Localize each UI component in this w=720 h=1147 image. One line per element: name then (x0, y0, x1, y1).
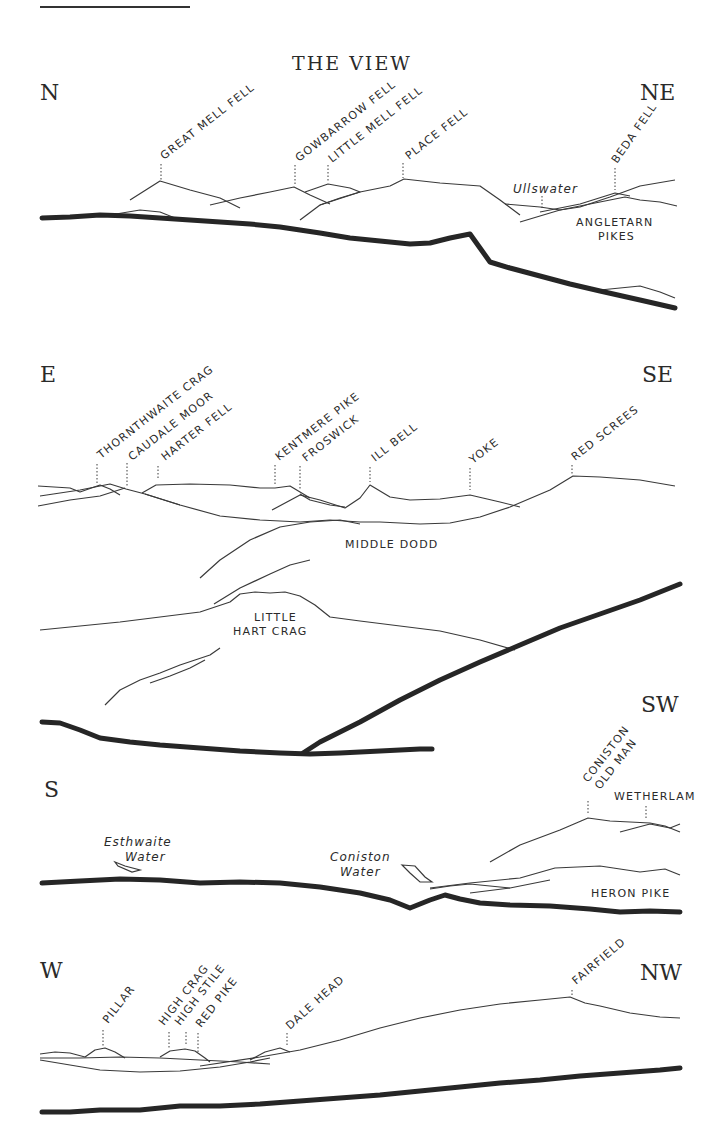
ridge-pillar (40, 1048, 125, 1058)
summit-label-yoke: YOKE (466, 435, 501, 467)
lake-coniston-water (402, 865, 432, 882)
label-coniston-water: Water (340, 865, 381, 879)
label-pikes: PIKES (598, 230, 635, 243)
diagram-title: THE VIEW (292, 52, 412, 74)
compass-label-se: SE (642, 362, 673, 387)
label-heron-pike: HERON PIKE (591, 887, 670, 900)
label-esthwaite: Esthwaite (104, 835, 172, 849)
summit-label-pillar: PILLAR (100, 983, 138, 1026)
ridge-kentmere-froswick (272, 485, 520, 510)
panel-south-southwest: SW S CONISTON OLD MAN WETHERLAM Esthwait… (42, 692, 696, 912)
summit-label-wetherlam: WETHERLAM (614, 790, 696, 803)
summit-label-red-screes: RED SCREES (569, 403, 641, 464)
ridge-fairfield (200, 997, 680, 1066)
compass-label-s: S (44, 777, 59, 802)
label-hart-crag: HART CRAG (233, 625, 307, 638)
compass-label-ne: NE (640, 80, 675, 105)
summit-label-place-fell: PLACE FELL (403, 105, 471, 162)
ridge-gully-2 (150, 660, 205, 683)
summit-label-ill-bell: ILL BELL (369, 420, 421, 464)
ridge-gully-1 (105, 648, 220, 705)
panel-east-southeast: E SE THORNTHWAITE CRAG CAUDALE MOOR HART… (38, 362, 680, 754)
compass-label-nw: NW (640, 960, 682, 985)
label-esthwaite-water: Water (125, 850, 166, 864)
compass-label-n: N (40, 80, 59, 105)
panorama-diagram: THE VIEW N NE GREAT MELL FELL GOWBARROW … (0, 0, 720, 1147)
compass-label-w: W (40, 958, 63, 983)
label-ullswater: Ullswater (513, 182, 578, 196)
compass-label-e: E (40, 362, 56, 387)
foreground-south (42, 879, 680, 912)
label-coniston: Coniston (330, 850, 391, 864)
ridge-harter-fell (142, 484, 310, 498)
ridge-hart-crag-upper (214, 560, 310, 604)
summit-label-great-mell-fell: GREAT MELL FELL (158, 81, 257, 162)
summit-label-beda: BEDA FELL (609, 101, 660, 166)
summit-label-dale-head: DALE HEAD (283, 973, 347, 1032)
panel-north-northeast: N NE GREAT MELL FELL GOWBARROW FELL LITT… (40, 78, 677, 308)
ridge-wetherlam (620, 824, 680, 832)
beda-fell-line: BEDA FELL (609, 101, 660, 166)
compass-label-sw: SW (641, 692, 679, 717)
label-middle-dodd: MIDDLE DODD (345, 538, 439, 551)
summit-label-fairfield: FAIRFIELD (570, 935, 629, 987)
label-angletarn: ANGLETARN (576, 216, 653, 229)
label-little: LITTLE (254, 611, 297, 624)
foreground-east (42, 722, 432, 754)
ridge-great-mell-fell (130, 181, 240, 208)
foreground-west (42, 1068, 680, 1112)
panel-west-northwest: W NW PILLAR HIGH CRAG HIGH STILE RED PIK… (40, 935, 682, 1112)
